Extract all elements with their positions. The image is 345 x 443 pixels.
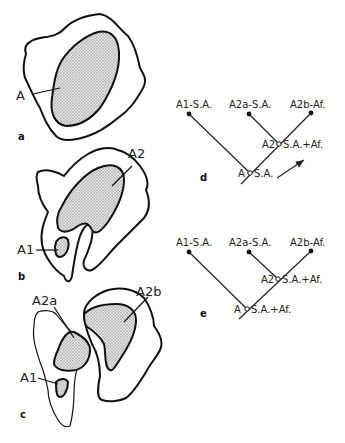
- node-d-a: [248, 171, 252, 175]
- node-label-d-a2: A2: [262, 139, 275, 150]
- panel-letter-b: b: [18, 271, 25, 282]
- panel-letter-d: d: [200, 172, 207, 183]
- panel-a: A a: [16, 14, 145, 142]
- tip-dot-e-a2a: [247, 250, 252, 255]
- label-a: A: [16, 88, 25, 103]
- panel-letter-c: c: [20, 409, 26, 420]
- node-d-a2: [277, 142, 281, 146]
- panel-b: A2 A1 b: [17, 146, 149, 282]
- node-state-d-a2: S.A.+Af.: [283, 139, 323, 150]
- node-state-e-a2: S.A.+Af.: [282, 274, 322, 285]
- panel-e-cladogram: A1-S.A. A2a-S.A. A2b-Af. A2 S.A.+Af. A S…: [176, 237, 325, 319]
- label-b-a2: A2: [128, 146, 145, 161]
- branch-e-a1: [189, 252, 247, 309]
- tip-label-e-a2b: A2b-Af.: [290, 237, 325, 248]
- panel-letter-e: e: [200, 308, 207, 319]
- label-c-a1: A1: [20, 370, 37, 385]
- tip-dot-d-a2b: [309, 111, 314, 116]
- tip-dot-d-a1: [187, 112, 192, 117]
- label-c-a2b: A2b: [136, 284, 161, 299]
- label-c-a2a: A2a: [32, 293, 57, 308]
- node-label-e-a2: A2: [261, 274, 274, 285]
- tip-dot-e-a2b: [309, 249, 314, 254]
- tip-label-d-a1: A1-S.A.: [176, 99, 212, 110]
- tip-dot-d-a2a: [247, 112, 252, 117]
- tip-label-d-a2b: A2b-Af.: [290, 99, 325, 110]
- panel-d-cladogram: A1-S.A. A2a-S.A. A2b-Af. A2 S.A.+Af. A S…: [176, 99, 325, 184]
- node-state-e-a: S.A.+Af.: [251, 304, 291, 315]
- node-state-d-a: S.A.: [254, 168, 273, 179]
- node-label-e-a: A: [234, 304, 241, 315]
- label-b-a1: A1: [17, 242, 34, 257]
- tip-dot-e-a1: [187, 250, 192, 255]
- tip-label-e-a1: A1-S.A.: [176, 237, 212, 248]
- dispersal-arrow-d: [277, 160, 304, 178]
- panel-c: A2a A2b A1 c: [20, 284, 162, 427]
- node-e-a2: [276, 277, 280, 281]
- panel-letter-a: a: [18, 131, 25, 142]
- node-e-a: [245, 307, 249, 311]
- tip-label-d-a2a: A2a-S.A.: [229, 99, 271, 110]
- branch-d-a1: [189, 114, 250, 173]
- figure: A a A2 A1 b A2a A2b A1 c: [0, 0, 345, 443]
- tip-label-e-a2a: A2a-S.A.: [229, 237, 271, 248]
- node-label-d-a: A: [238, 168, 245, 179]
